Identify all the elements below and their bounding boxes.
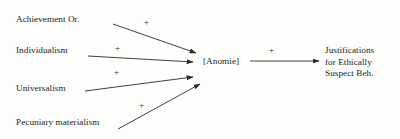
edge-achievement-to-anomie [113, 24, 196, 53]
edge-pecuniary-to-anomie [118, 84, 200, 129]
edge-sign-anomie-justifications: + [269, 46, 274, 55]
node-justifications-line-1: Justifications [325, 45, 374, 55]
edge-sign-achievement: + [144, 18, 149, 27]
node-anomie: [Anomie] [203, 56, 239, 68]
edge-universalism-to-anomie [85, 77, 193, 91]
edge-individualism-to-anomie [88, 56, 193, 62]
path-diagram: Achievement Or. Individualism Universali… [0, 0, 400, 139]
node-individualism: Individualism [16, 45, 68, 57]
node-pecuniary-materialism: Pecuniary materialism [16, 117, 99, 129]
edge-sign-pecuniary: + [139, 101, 144, 110]
node-justifications-line-3: Suspect Beh. [325, 68, 374, 78]
node-achievement-orientation: Achievement Or. [16, 14, 80, 26]
edge-sign-universalism: + [114, 68, 119, 77]
node-justifications: Justifications for Ethically Suspect Beh… [325, 45, 399, 80]
node-justifications-line-2: for Ethically [325, 57, 372, 67]
node-universalism: Universalism [16, 83, 66, 95]
edge-sign-individualism: + [115, 44, 120, 53]
